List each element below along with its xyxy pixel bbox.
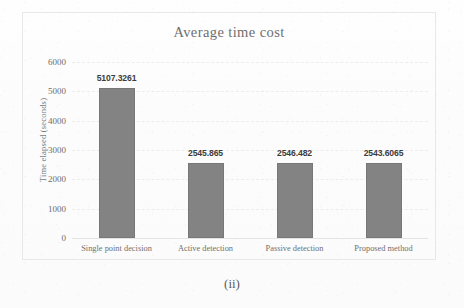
bar-value-label: 2543.6065 [364, 148, 404, 158]
bar-slot: 5107.3261 [72, 62, 161, 238]
bar-value-label: 5107.3261 [97, 73, 137, 83]
x-axis-category-label: Single point decision [81, 244, 152, 253]
bar [99, 88, 135, 238]
x-axis-category-label: Passive detection [266, 244, 324, 253]
y-axis-tick-label: 6000 [48, 57, 66, 67]
plot-area: 0100020003000400050006000 5107.32612545.… [72, 62, 428, 238]
y-axis-tick-label: 5000 [48, 86, 66, 96]
bar-slot: 2546.482 [250, 62, 339, 238]
y-axis-tick-label: 1000 [48, 204, 66, 214]
y-axis-tick-label: 2000 [48, 174, 66, 184]
bar-series: 5107.32612545.8652546.4822543.6065 [72, 62, 428, 238]
bar-value-label: 2546.482 [277, 148, 312, 158]
figure-caption: (ii) [0, 276, 464, 292]
bar [366, 163, 402, 238]
x-axis-category-label: Active detection [178, 244, 233, 253]
x-axis-category-label: Proposed method [354, 244, 412, 253]
bar-slot: 2543.6065 [339, 62, 428, 238]
y-axis-title: Time elapsed (seconds) [38, 75, 48, 205]
bar [188, 163, 224, 238]
bar-value-label: 2545.865 [188, 148, 223, 158]
y-axis-tick-label: 4000 [48, 116, 66, 126]
gridline [72, 238, 428, 239]
chart-title: Average time cost [22, 24, 436, 41]
bar-slot: 2545.865 [161, 62, 250, 238]
y-axis-tick-label: 3000 [48, 145, 66, 155]
y-axis-tick-label: 0 [62, 233, 67, 243]
bar [277, 163, 313, 238]
